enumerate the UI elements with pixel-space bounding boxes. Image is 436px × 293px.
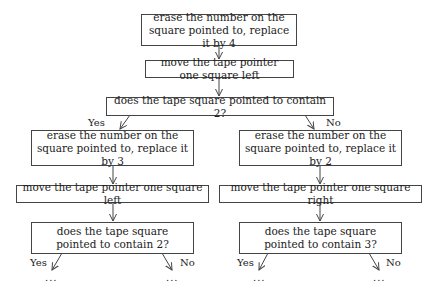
yes-decision-contains-2: does the tape square pointed to contain …	[31, 222, 194, 254]
no-sub-label-yes: Yes	[237, 257, 254, 268]
no-sub-continuation-left: ...	[253, 272, 266, 283]
no-sub-label-no: No	[386, 257, 401, 268]
action-replace-by-4: erase the number on the square pointed t…	[141, 14, 297, 46]
action-text: erase the number on the square pointed t…	[36, 129, 189, 168]
yes-action-replace-by-3: erase the number on the square pointed t…	[31, 130, 194, 166]
yes-action-move-left: move the tape pointer one square left	[16, 185, 209, 203]
decision-text: does the tape square pointed to contain …	[36, 225, 189, 251]
no-action-move-right: move the tape pointer one square right	[219, 185, 422, 203]
action-text: erase the number on the square pointed t…	[146, 11, 292, 50]
no-decision-contains-3: does the tape square pointed to contain …	[239, 222, 402, 254]
action-text: move the tape pointer one square right	[224, 181, 417, 207]
action-text: move the tape pointer one square left	[21, 181, 204, 207]
decision-text: does the tape square pointed to contain …	[244, 225, 397, 251]
yes-sub-label-yes: Yes	[30, 257, 47, 268]
action-text: move the tape pointer one square left	[150, 56, 289, 82]
edge-label-no: No	[326, 117, 341, 128]
decision-contains-2: does the tape square pointed to contain …	[106, 97, 334, 116]
yes-sub-continuation-right: ...	[166, 272, 179, 283]
action-move-left: move the tape pointer one square left	[145, 60, 294, 78]
yes-sub-label-no: No	[180, 257, 195, 268]
no-action-replace-by-2: erase the number on the square pointed t…	[239, 130, 402, 166]
edge-label-yes: Yes	[88, 117, 105, 128]
decision-text: does the tape square pointed to contain …	[111, 94, 329, 120]
no-sub-continuation-right: ...	[373, 272, 386, 283]
action-text: erase the number on the square pointed t…	[244, 129, 397, 168]
yes-sub-continuation-left: ...	[45, 272, 58, 283]
